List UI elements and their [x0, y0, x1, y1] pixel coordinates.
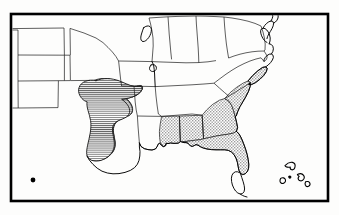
isolated-locality-point: [31, 178, 36, 183]
state-mississippi-shaded: [159, 116, 180, 147]
map-canvas: [0, 0, 339, 215]
state-alabama-shaded: [179, 115, 203, 142]
bahamas-island-dot: [289, 176, 291, 178]
distribution-map-figure: [0, 0, 339, 215]
